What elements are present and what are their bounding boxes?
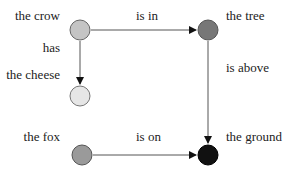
diagram-canvas (0, 0, 291, 170)
node-ground (198, 145, 218, 165)
edge-label-is-on: is on (136, 129, 161, 144)
label-cheese: the cheese (0, 67, 60, 82)
edge-label-has: has (0, 40, 60, 55)
label-fox: the fox (0, 129, 60, 144)
node-tree (198, 20, 218, 40)
label-ground: the ground (226, 129, 282, 144)
node-crow (70, 20, 90, 40)
label-crow: the crow (0, 8, 60, 23)
node-cheese (70, 86, 90, 106)
node-fox (72, 145, 92, 165)
label-tree: the tree (226, 8, 265, 23)
edge-label-is-above: is above (226, 60, 269, 75)
edge-label-is-in: is in (136, 8, 158, 23)
